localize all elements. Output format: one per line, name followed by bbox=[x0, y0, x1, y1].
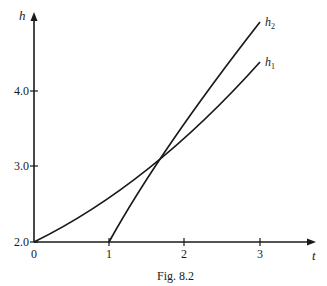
x-axis-label: t bbox=[312, 248, 316, 263]
x-axis-arrow-icon bbox=[307, 239, 316, 246]
series-h1-line bbox=[34, 62, 260, 242]
x-tick-label: 2 bbox=[181, 247, 187, 261]
chart: 2.0 3.0 4.0 0 1 2 3 h t h2 h1 Fig. 8.2 bbox=[0, 0, 327, 286]
figure-caption: Fig. 8.2 bbox=[157, 269, 194, 283]
y-tick-label: 4.0 bbox=[14, 84, 29, 98]
series-h1-label: h1 bbox=[265, 55, 275, 71]
series-h2-label: h2 bbox=[265, 15, 275, 31]
y-tick-label: 3.0 bbox=[14, 159, 29, 173]
series-h2-line bbox=[109, 22, 260, 242]
x-tick-label: 1 bbox=[106, 247, 112, 261]
x-tick-label: 3 bbox=[257, 247, 263, 261]
y-tick-label: 2.0 bbox=[14, 235, 29, 249]
y-axis-label: h bbox=[19, 8, 26, 23]
x-tick-label: 0 bbox=[31, 247, 37, 261]
y-axis-arrow-icon bbox=[31, 12, 38, 21]
